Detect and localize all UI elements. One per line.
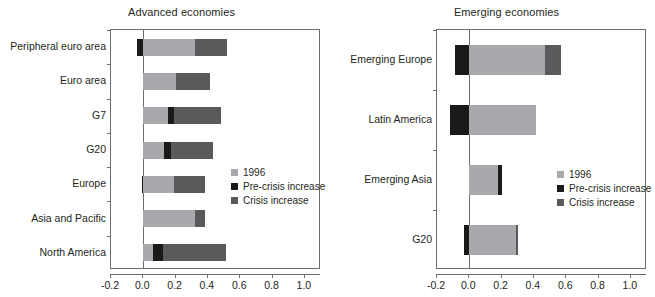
y-axis-label: North America xyxy=(39,246,106,258)
bar-segment-base xyxy=(143,244,153,261)
y-axis-label: Asia and Pacific xyxy=(31,212,106,224)
y-axis-label: G20 xyxy=(412,233,432,245)
bar-segment-crisis xyxy=(174,107,221,124)
x-axis-tick-label: 0.8 xyxy=(590,279,605,291)
bar-segment-base xyxy=(469,45,545,75)
x-axis-tick xyxy=(175,274,176,278)
bar-segment-pre xyxy=(455,45,470,75)
bar-segment-crisis xyxy=(195,210,205,227)
x-axis-tick xyxy=(598,274,599,278)
legend-item: 1996 xyxy=(231,166,325,179)
bar-row xyxy=(111,142,319,159)
panel-title-advanced: Advanced economies xyxy=(0,6,327,18)
y-axis-tick xyxy=(107,99,111,100)
x-axis-tick xyxy=(630,274,631,278)
legend-swatch-base xyxy=(231,169,238,176)
legend-swatch-pre xyxy=(557,185,564,192)
plot-area-advanced xyxy=(110,29,320,269)
bar-segment-pre xyxy=(153,244,163,261)
bar-row xyxy=(437,105,645,135)
y-axis-tick xyxy=(107,236,111,237)
x-axis-tick xyxy=(110,274,111,278)
bar-segment-crisis xyxy=(176,73,210,90)
y-axis-label: Europe xyxy=(72,177,106,189)
y-axis-tick xyxy=(433,90,437,91)
y-axis-label: Latin America xyxy=(368,113,432,125)
y-axis-tick xyxy=(433,150,437,151)
bar-row xyxy=(111,39,319,56)
legend-swatch-crisis xyxy=(557,199,564,206)
x-axis-tick-label: 0.8 xyxy=(264,279,279,291)
bar-segment-base xyxy=(469,105,535,135)
y-axis-label: Emerging Asia xyxy=(364,173,432,185)
x-axis-tick-label: 0.2 xyxy=(167,279,182,291)
panel-emerging-economies: Emerging economies Emerging EuropeLatin … xyxy=(328,0,655,297)
x-axis-tick-label: 0.0 xyxy=(135,279,150,291)
y-axis-labels-emerging: Emerging EuropeLatin AmericaEmerging Asi… xyxy=(328,29,432,269)
legend-label: Pre-crisis increase xyxy=(569,182,651,195)
x-axis-tick xyxy=(142,274,143,278)
x-axis-tick xyxy=(436,274,437,278)
bar-row xyxy=(437,225,645,255)
x-axis-tick-label: 0.4 xyxy=(526,279,541,291)
bar-row xyxy=(437,45,645,75)
bar-segment-crisis xyxy=(545,45,561,75)
bar-segment-crisis xyxy=(195,39,227,56)
legend-label: Crisis increase xyxy=(243,194,309,207)
x-axis-tick xyxy=(304,274,305,278)
y-axis-tick xyxy=(107,201,111,202)
bar-segment-base xyxy=(143,210,195,227)
y-axis-label: Emerging Europe xyxy=(350,53,432,65)
bar-segment-crisis xyxy=(163,244,226,261)
legend-item: 1996 xyxy=(557,168,651,181)
x-axis-tick xyxy=(207,274,208,278)
bar-segment-base xyxy=(143,107,167,124)
legend-label: Crisis increase xyxy=(569,196,635,209)
legend-swatch-crisis xyxy=(231,197,238,204)
legend-label: Pre-crisis increase xyxy=(243,180,325,193)
x-axis-tick xyxy=(468,274,469,278)
panel-advanced-economies: Advanced economies Peripheral euro areaE… xyxy=(0,0,327,297)
x-axis-tick-label: -0.2 xyxy=(101,279,119,291)
x-axis-tick-label: 0.4 xyxy=(200,279,215,291)
bar-segment-base xyxy=(143,176,174,193)
legend-emerging: 1996Pre-crisis increaseCrisis increase xyxy=(557,168,651,210)
x-axis-tick xyxy=(533,274,534,278)
x-axis-tick-label: -0.2 xyxy=(427,279,445,291)
bar-segment-pre xyxy=(450,105,469,135)
legend-item: Crisis increase xyxy=(231,194,325,207)
bar-segment-base xyxy=(143,73,175,90)
legend-swatch-pre xyxy=(231,183,238,190)
x-axis-tick xyxy=(272,274,273,278)
y-axis-label: Euro area xyxy=(60,74,106,86)
y-axis-tick xyxy=(433,210,437,211)
panel-title-emerging: Emerging economies xyxy=(328,6,655,18)
y-axis-tick xyxy=(107,30,111,31)
y-axis-label: Peripheral euro area xyxy=(10,40,106,52)
legend-item: Pre-crisis increase xyxy=(557,182,651,195)
bar-segment-crisis xyxy=(174,176,205,193)
y-axis-tick xyxy=(107,64,111,65)
y-axis-tick xyxy=(107,167,111,168)
x-axis-tick xyxy=(239,274,240,278)
x-axis-tick-label: 0.0 xyxy=(461,279,476,291)
x-axis-tick-label: 1.0 xyxy=(623,279,638,291)
x-axis-tick xyxy=(565,274,566,278)
bar-segment-base xyxy=(469,225,516,255)
y-axis-label: G7 xyxy=(92,109,106,121)
plot-area-emerging xyxy=(436,29,646,269)
y-axis-label: G20 xyxy=(86,143,106,155)
bar-segment-base xyxy=(469,165,498,195)
bar-segment-base xyxy=(143,142,164,159)
bar-row xyxy=(111,107,319,124)
x-axis-tick-label: 0.6 xyxy=(232,279,247,291)
y-axis-labels-advanced: Peripheral euro areaEuro areaG7G20Europe… xyxy=(0,29,106,269)
bar-row xyxy=(111,210,319,227)
y-axis-tick xyxy=(433,30,437,31)
legend-advanced: 1996Pre-crisis increaseCrisis increase xyxy=(231,166,325,208)
legend-item: Crisis increase xyxy=(557,196,651,209)
bar-row xyxy=(111,73,319,90)
bar-segment-crisis xyxy=(516,225,518,255)
x-axis-tick xyxy=(501,274,502,278)
legend-label: 1996 xyxy=(243,166,265,179)
